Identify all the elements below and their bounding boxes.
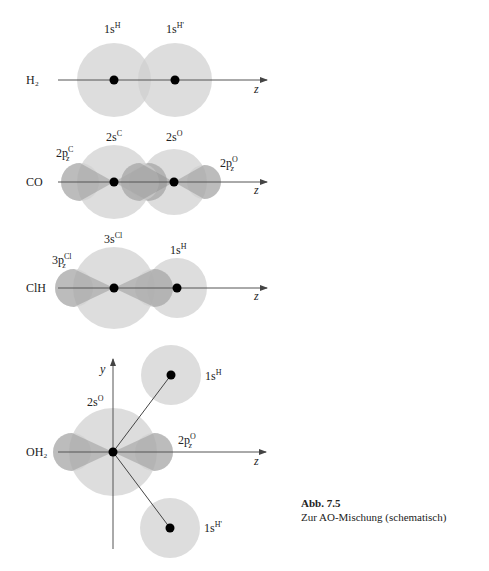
- molecule-label-co: CO: [26, 175, 43, 189]
- label-1s-h: 1sH: [104, 21, 121, 36]
- panel-oh2: OH₂ z y 2sO 2pOz 1sH 1sH': [26, 345, 266, 558]
- z-axis-label: z: [253, 183, 259, 197]
- molecule-label-oh2: OH₂: [26, 445, 48, 459]
- nucleus-h-prime: [171, 76, 180, 85]
- label-2s-c: 2sC: [106, 129, 122, 144]
- label-2s-o: 2sO: [166, 129, 183, 144]
- z-axis-label: z: [253, 82, 259, 96]
- panel-h2: H₂ z 1sH 1sH': [26, 21, 267, 117]
- label-3s-cl: 3sCl: [104, 231, 123, 246]
- label-2pz-c: 2pCz: [56, 145, 73, 163]
- label-1s-h: 1sH: [170, 242, 187, 257]
- label-2pz-o: 2pOz: [220, 155, 238, 173]
- figure-caption-text: Zur AO-Mischung (schematisch): [301, 511, 446, 523]
- nucleus-h: [110, 76, 119, 85]
- nucleus-h-prime: [166, 524, 175, 533]
- label-1s-h: 1sH: [205, 368, 222, 383]
- nucleus-o: [170, 178, 179, 187]
- nucleus-c: [110, 178, 119, 187]
- figure-number: Abb. 7.5: [301, 496, 446, 510]
- label-1s-h-prime: 1sH': [166, 21, 184, 36]
- molecule-label-h2: H₂: [26, 73, 39, 87]
- label-2pz-o: 2pOz: [178, 432, 196, 450]
- nucleus-h: [173, 284, 182, 293]
- label-3pz-cl: 3pClz: [52, 252, 72, 270]
- z-axis-label: z: [253, 289, 259, 303]
- molecule-label-clh: ClH: [26, 281, 46, 295]
- ao-mixing-diagram: H₂ z 1sH 1sH' CO z 2sC 2pCz 2sO 2pOz: [0, 0, 489, 571]
- panel-clh: ClH z 3sCl 3pClz 1sH: [26, 231, 267, 329]
- y-axis-label: y: [99, 362, 106, 376]
- z-axis-label: z: [253, 454, 259, 468]
- label-2s-o: 2sO: [87, 394, 104, 409]
- panel-co: CO z 2sC 2pCz 2sO 2pOz: [26, 129, 267, 219]
- nucleus-h: [167, 371, 176, 380]
- nucleus-o: [109, 448, 118, 457]
- label-1s-h-prime: 1sH': [204, 520, 222, 535]
- nucleus-cl: [110, 284, 119, 293]
- figure-caption: Abb. 7.5 Zur AO-Mischung (schematisch): [301, 496, 446, 524]
